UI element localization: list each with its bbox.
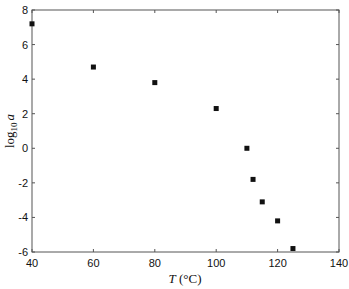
x-tick-label: 60 <box>87 257 99 269</box>
x-tick-label: 80 <box>149 257 161 269</box>
y-tick-label: -4 <box>18 211 28 223</box>
x-axis-ticks: 406080100120140 <box>26 10 348 269</box>
data-point-marker <box>244 146 249 151</box>
y-tick-label: 8 <box>22 4 28 16</box>
y-axis-label: log10a <box>2 113 19 148</box>
y-tick-label: 2 <box>22 108 28 120</box>
y-tick-label: -2 <box>18 177 28 189</box>
data-point-marker <box>290 246 295 251</box>
plot-frame <box>32 10 339 252</box>
y-tick-label: 4 <box>22 73 28 85</box>
y-tick-label: -6 <box>18 246 28 258</box>
data-point-marker <box>30 21 35 26</box>
data-points <box>30 21 296 251</box>
data-point-marker <box>91 65 96 70</box>
x-tick-label: 120 <box>268 257 286 269</box>
x-tick-label: 100 <box>207 257 225 269</box>
data-point-marker <box>152 80 157 85</box>
data-point-marker <box>260 199 265 204</box>
plot-border <box>32 10 339 252</box>
x-tick-label: 40 <box>26 257 38 269</box>
y-tick-label: 6 <box>22 39 28 51</box>
y-axis-ticks: -6-4-202468 <box>18 4 339 258</box>
x-tick-label: 140 <box>330 257 348 269</box>
x-axis-label: T (°C) <box>168 271 201 286</box>
data-point-marker <box>251 177 256 182</box>
data-point-marker <box>214 106 219 111</box>
y-tick-label: 0 <box>22 142 28 154</box>
scatter-chart: 406080100120140 -6-4-202468 T (°C) log10… <box>0 0 349 289</box>
data-point-marker <box>275 218 280 223</box>
